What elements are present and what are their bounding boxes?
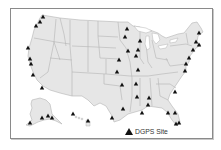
triangle-marker-icon [125,128,133,135]
legend: DGPS Site [125,127,174,136]
dgps-site-marker-icon [140,111,144,115]
dgps-site-marker-icon [71,112,75,116]
alaska-landmass [26,98,62,126]
contiguous-us-landmass [28,15,203,126]
dgps-site-marker-icon [173,90,177,94]
legend-label: DGPS Site [135,127,168,136]
us-map [0,0,221,150]
